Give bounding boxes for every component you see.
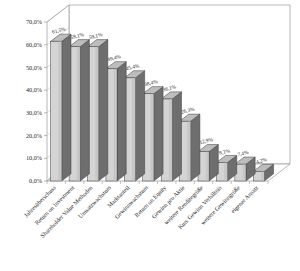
bar-front-shading bbox=[243, 164, 246, 181]
bar-side-face bbox=[135, 71, 144, 181]
bar-front-shading bbox=[261, 171, 264, 181]
bar-group[interactable] bbox=[143, 87, 163, 181]
bar-group[interactable] bbox=[51, 34, 71, 181]
bar-front-shading bbox=[95, 47, 98, 181]
bar-side-face bbox=[172, 92, 181, 181]
bar-group[interactable] bbox=[124, 71, 144, 181]
bar-side-face bbox=[154, 87, 163, 181]
y-axis-tick-label: 40,0% bbox=[26, 86, 42, 93]
x-axis-category-label: Umsatzwachstum bbox=[77, 184, 112, 219]
bar-group[interactable] bbox=[198, 145, 218, 181]
bar-side-face bbox=[191, 114, 200, 181]
bar-front-shading bbox=[169, 99, 172, 181]
bar-group[interactable] bbox=[180, 114, 200, 181]
y-axis-tick-label: 0,0% bbox=[29, 177, 42, 184]
bar-front-shading bbox=[132, 78, 135, 181]
bar-side-face bbox=[99, 40, 108, 181]
chart-container: 0,0%10,0%20,0%30,0%40,0%50,0%60,0%70,0%4… bbox=[0, 0, 300, 271]
bar-group[interactable] bbox=[106, 62, 126, 181]
bar-chart: 0,0%10,0%20,0%30,0%40,0%50,0%60,0%70,0%4… bbox=[0, 0, 300, 271]
bar-side-face bbox=[80, 40, 89, 181]
bar-group[interactable] bbox=[69, 40, 89, 181]
bar-front-shading bbox=[224, 163, 227, 181]
bar-front-shading bbox=[114, 69, 117, 181]
x-axis-category-label: Gewinn pro Aktie bbox=[151, 184, 186, 219]
bar-front-shading bbox=[151, 94, 154, 181]
y-axis-tick-label: 20,0% bbox=[26, 132, 42, 139]
y-axis-tick-label: 70,0% bbox=[26, 18, 42, 25]
y-axis-tick-label: 60,0% bbox=[26, 41, 42, 48]
bar-group[interactable] bbox=[161, 92, 181, 181]
x-axis-category-label: Return on Equity bbox=[133, 184, 168, 219]
y-axis-tick-label: 30,0% bbox=[26, 109, 42, 116]
bar-front-shading bbox=[206, 152, 209, 181]
bar-group[interactable] bbox=[88, 40, 108, 181]
bar-front-shading bbox=[58, 41, 61, 181]
x-axis-category-label: Jahresüberschuss bbox=[23, 184, 57, 218]
bar-side-face bbox=[117, 62, 126, 181]
bar-side-face bbox=[62, 34, 71, 181]
bar-front-shading bbox=[187, 121, 190, 181]
y-axis-tick-label: 10,0% bbox=[26, 154, 42, 161]
y-axis-tick-label: 50,0% bbox=[26, 64, 42, 71]
x-axis-category-label: Gewinnwachstum bbox=[114, 184, 150, 220]
bar-front-shading bbox=[77, 47, 80, 181]
